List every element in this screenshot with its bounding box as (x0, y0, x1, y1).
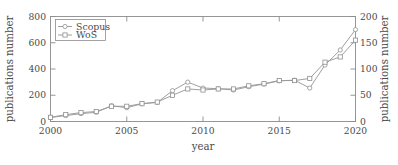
data-point (338, 55, 342, 59)
data-point (216, 87, 220, 91)
chart-legend: Scopus WoS (56, 20, 111, 41)
data-point (170, 89, 174, 93)
data-point (338, 48, 342, 52)
left-tick-label-800: 800 (28, 11, 46, 22)
right-tick-label-50: 50 (360, 89, 372, 100)
y-axis-title: publications number (4, 16, 15, 123)
data-point (79, 110, 83, 114)
data-point (353, 28, 357, 32)
data-point (140, 102, 144, 106)
data-point (323, 60, 327, 64)
left-tick-label-400: 400 (28, 63, 46, 74)
data-point (125, 104, 129, 108)
series-line-scopus (51, 30, 356, 118)
right-tick-label-150: 150 (360, 37, 378, 48)
right-axis-tick-labels: 0 50 100 150 200 (360, 11, 378, 127)
left-axis-ticks (51, 17, 56, 122)
square-marker (63, 33, 67, 37)
x-tick-label-2015: 2015 (268, 125, 292, 136)
x-axis-title: year (191, 141, 215, 152)
data-point (308, 76, 312, 80)
right-tick-label-200: 200 (360, 11, 378, 22)
data-point (308, 86, 312, 90)
series-scopus (48, 28, 357, 120)
x-tick-label-2020: 2020 (344, 125, 368, 136)
left-axis-tick-labels: 0 200 400 600 800 (28, 11, 46, 127)
legend-label-wos: WoS (76, 29, 97, 40)
data-point (48, 115, 52, 119)
data-point (64, 113, 68, 117)
data-point (231, 87, 235, 91)
chart-figure: 0 200 400 600 800 0 50 100 150 200 (0, 0, 398, 165)
data-point (277, 78, 281, 82)
circle-marker (63, 24, 67, 28)
data-point (186, 87, 190, 91)
series-wos (48, 38, 357, 119)
data-point (170, 93, 174, 97)
series-layer (48, 28, 357, 120)
x-axis-tick-labels: 2000 2005 2010 2015 2020 (39, 125, 368, 136)
right-tick-label-100: 100 (360, 63, 378, 74)
data-point (353, 38, 357, 42)
x-tick-label-2010: 2010 (191, 125, 215, 136)
data-point (94, 109, 98, 113)
x-tick-label-2000: 2000 (39, 125, 63, 136)
data-point (262, 82, 266, 86)
data-point (247, 84, 251, 88)
x-tick-label-2005: 2005 (115, 125, 139, 136)
data-point (292, 78, 296, 82)
left-tick-label-200: 200 (28, 89, 46, 100)
data-point (155, 100, 159, 104)
left-tick-label-600: 600 (28, 37, 46, 48)
y2-axis-title: publications number (379, 16, 390, 123)
data-point (109, 104, 113, 108)
line-chart: 0 200 400 600 800 0 50 100 150 200 (0, 0, 398, 165)
data-point (201, 88, 205, 92)
data-point (186, 80, 190, 84)
